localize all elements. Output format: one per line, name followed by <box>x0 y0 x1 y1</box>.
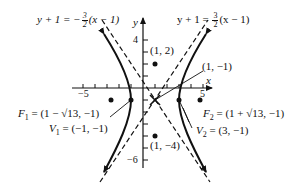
label-focus-1: F1 = (1 − √13, −1) <box>18 108 99 119</box>
f2-name: F <box>203 107 210 119</box>
asymptote-negative-label: y + 1 = −32(x − 1) <box>37 12 119 29</box>
label-vertex-2: V2 = (3, −1) <box>196 125 248 136</box>
y-tick-4: 4 <box>133 35 138 45</box>
label-center: (1, −1) <box>202 61 232 72</box>
v1-sub: 1 <box>56 128 60 137</box>
asymptote-pos-rhs: (x − 1) <box>219 13 249 25</box>
x-tick-5: 5 <box>200 89 205 99</box>
x-tick-neg5: −5 <box>78 89 89 99</box>
v2-name: V <box>196 124 203 136</box>
asymptote-neg-lhs: y + 1 = − <box>37 13 81 25</box>
v1-name: V <box>49 122 56 134</box>
leader-lines <box>110 71 203 128</box>
x-axis <box>72 84 212 88</box>
v1-value: = (−1, −1) <box>60 122 108 134</box>
label-vertex-1: V1 = (−1, −1) <box>49 123 108 134</box>
point-top <box>153 62 158 67</box>
fraction-den: 2 <box>82 21 88 29</box>
y-axis <box>143 18 148 168</box>
f1-value: = (1 − √13, −1) <box>29 107 99 119</box>
fraction: 32 <box>212 12 218 29</box>
point-bottom <box>153 134 158 139</box>
asymptote-neg-rhs: (x − 1) <box>89 13 120 25</box>
f1-name: F <box>18 107 25 119</box>
label-focus-2: F2 = (1 + √13, −1) <box>203 108 284 119</box>
y-tick-neg6: −6 <box>127 155 138 165</box>
fraction-den: 2 <box>212 21 218 29</box>
focus-1 <box>109 98 114 103</box>
x-axis-label: x <box>206 75 211 86</box>
y-axis-label: y <box>133 17 138 28</box>
f2-value: = (1 + √13, −1) <box>214 107 284 119</box>
v2-value: = (3, −1) <box>207 124 249 136</box>
f2-sub: 2 <box>210 113 214 122</box>
fraction: 32 <box>82 12 88 29</box>
right-branch <box>179 34 206 172</box>
v2-sub: 2 <box>203 130 207 139</box>
f1-sub: 1 <box>25 113 29 122</box>
label-bottom-point: (1, −4) <box>150 140 180 151</box>
label-top-point: (1, 2) <box>150 45 174 56</box>
asymptote-positive-label: y + 1 = 32(x − 1) <box>177 12 249 29</box>
asymptote-pos-lhs: y + 1 = <box>177 13 211 25</box>
